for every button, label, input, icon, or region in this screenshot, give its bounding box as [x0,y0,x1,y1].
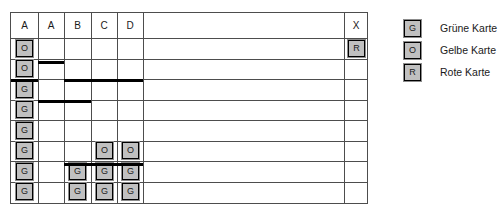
legend-label: Gelbe Karte [440,40,496,61]
divider-bar [11,79,38,82]
column-header: A [11,13,38,38]
column-separator [143,13,144,203]
card-token-g: G [16,142,33,159]
card-token-g: G [122,183,139,200]
divider-bar [64,163,91,166]
divider-bar [64,79,143,82]
card-distribution-table: AABCDX OOGGGGGGGGOGGOGGR [10,12,368,204]
divider-bar [38,100,91,103]
column-separator [64,13,65,203]
row-separator [11,141,367,142]
legend-chip-r: R [404,64,421,81]
column-separator [344,13,345,203]
divider-bar [38,61,64,64]
card-token-o: O [96,142,113,159]
card-token-g: G [16,183,33,200]
column-header: X [344,13,368,38]
column-header: D [117,13,143,38]
card-token-g: G [16,81,33,98]
figure-caption [10,208,340,217]
card-token-o: O [16,60,33,77]
column-header [143,13,344,38]
legend-chip-g: G [404,20,421,37]
card-token-g: G [16,101,33,118]
card-token-r: R [348,40,365,57]
column-header: A [38,13,64,38]
legend-chip-o: O [404,42,421,59]
column-separator [117,13,118,203]
divider-bar [91,163,143,166]
header-separator [11,38,367,39]
card-token-o: O [122,142,139,159]
card-token-g: G [16,163,33,180]
column-header: B [64,13,91,38]
row-separator [11,182,367,183]
card-token-g: G [69,183,86,200]
card-token-o: O [16,40,33,57]
column-separator [38,13,39,203]
row-separator [11,120,367,121]
card-token-g: G [16,122,33,139]
row-separator [11,161,367,162]
row-separator [11,59,367,60]
legend-label: Rote Karte [440,62,490,83]
legend-label: Grüne Karte [440,18,497,39]
card-token-g: G [96,183,113,200]
column-separator [91,13,92,203]
column-header: C [91,13,117,38]
